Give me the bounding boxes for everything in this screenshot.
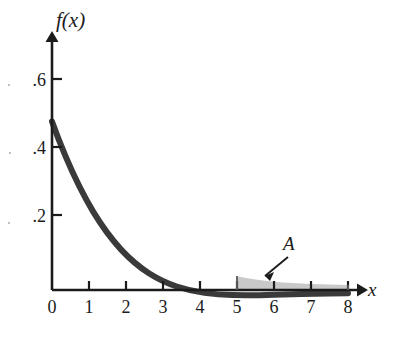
x-tick-label-3: 3 — [153, 298, 173, 316]
scan-speck — [9, 152, 11, 154]
region-a-label: A — [283, 234, 295, 253]
shaded-region-a — [237, 276, 348, 290]
x-tick-label-4: 4 — [190, 298, 210, 316]
x-tick-label-1: 1 — [79, 298, 99, 316]
x-axis-title: x — [368, 280, 376, 299]
x-tick-label-8: 8 — [338, 298, 358, 316]
y-tick-label-0-6: .6 — [16, 71, 46, 89]
exponential-density-figure: f(x) x A 0 1 2 3 4 5 6 7 8 .2 .4 .6 — [0, 0, 396, 338]
x-axis-arrowhead — [357, 284, 368, 297]
y-axis-title: f(x) — [56, 10, 85, 31]
scan-speck — [8, 84, 10, 86]
y-axis-ticks — [52, 79, 62, 215]
x-tick-label-7: 7 — [301, 298, 321, 316]
annotation-arrow-a — [265, 257, 288, 281]
x-tick-label-5: 5 — [227, 298, 247, 316]
scan-speck — [8, 222, 10, 224]
y-tick-label-0-2: .2 — [16, 207, 46, 225]
y-axis-arrowhead — [46, 31, 59, 42]
x-tick-label-0: 0 — [42, 298, 62, 316]
x-tick-label-2: 2 — [116, 298, 136, 316]
plot-canvas — [0, 0, 396, 338]
x-tick-label-6: 6 — [264, 298, 284, 316]
y-tick-label-0-4: .4 — [16, 139, 46, 157]
exponential-curve — [52, 122, 348, 296]
